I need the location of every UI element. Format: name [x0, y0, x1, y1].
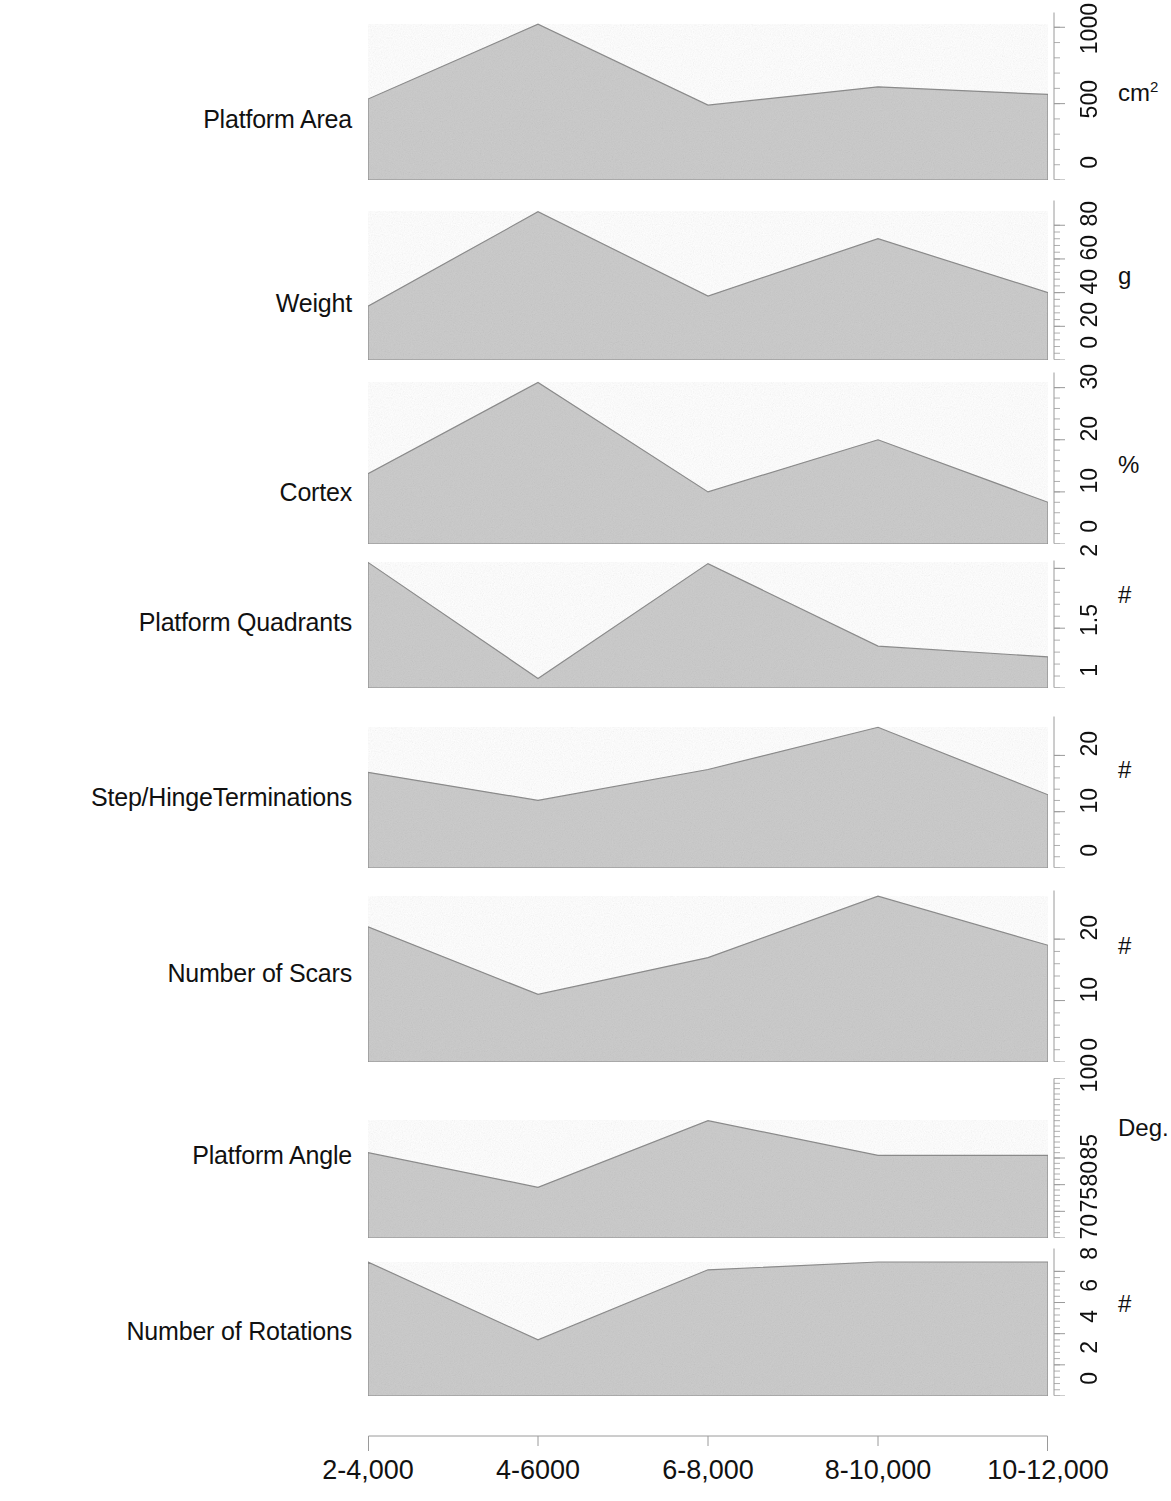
panel-label: Number of Rotations [2, 1317, 352, 1346]
y-tick-label: 20 [1078, 915, 1101, 941]
y-tick-label: 20 [1078, 731, 1101, 757]
y-tick-label: 20 [1078, 302, 1101, 328]
y-tick-label: 85 [1078, 1134, 1101, 1160]
area-texture [368, 1121, 1048, 1238]
y-tick-label: 2 [1078, 544, 1101, 557]
stacked-area-chart-figure: Platform Area05001000cm2Weight020406080g… [0, 0, 1171, 1501]
area-texture [368, 562, 1048, 688]
y-tick-label: 0 [1078, 844, 1101, 857]
y-tick-label: 0 [1078, 520, 1101, 533]
panel-plot-area [368, 890, 1048, 1062]
area-texture [368, 896, 1048, 1062]
panel-label: Cortex [2, 478, 352, 507]
y-tick-label: 70 [1078, 1214, 1101, 1240]
y-tick-label: 30 [1078, 364, 1101, 390]
area-texture [368, 1262, 1048, 1396]
y-tick-label: 1000 [1078, 3, 1101, 54]
y-tick-label: 0 [1078, 336, 1101, 349]
y-tick-label: 0 [1078, 156, 1101, 169]
area-texture [368, 212, 1048, 360]
panel-label: Weight [2, 289, 352, 318]
y-tick-label: 60 [1078, 235, 1101, 261]
panel-label: Number of Scars [2, 959, 352, 988]
y-tick-label: 10 [1078, 977, 1101, 1003]
unit-text: Deg. [1118, 1114, 1169, 1141]
x-axis-tick-label: 8-10,000 [825, 1455, 932, 1486]
y-axis-unit-label: g [1118, 262, 1131, 290]
panel-label: Platform Quadrants [2, 608, 352, 637]
unit-text: # [1118, 932, 1131, 959]
y-tick-label: 8 [1078, 1247, 1101, 1260]
y-axis-unit-label: cm2 [1118, 78, 1158, 107]
area-texture [368, 24, 1048, 180]
x-axis-tick-label: 4-6000 [496, 1455, 580, 1486]
panel-plot-area [368, 716, 1048, 868]
y-axis [1048, 372, 1088, 544]
y-tick-label: 100 [1078, 1054, 1101, 1092]
y-axis-unit-label: # [1118, 932, 1131, 960]
y-tick-label: 0 [1078, 1038, 1101, 1051]
y-tick-label: 4 [1078, 1310, 1101, 1323]
unit-text: g [1118, 262, 1131, 289]
y-tick-label: 10 [1078, 788, 1101, 814]
y-tick-label: 40 [1078, 269, 1101, 295]
panel-plot-area [368, 1248, 1048, 1396]
panel-label: Platform Area [2, 105, 352, 134]
y-tick-label: 80 [1078, 1161, 1101, 1187]
y-axis-unit-label: # [1118, 1290, 1131, 1318]
panel-label: Platform Angle [2, 1141, 352, 1170]
y-tick-label: 1 [1078, 664, 1101, 677]
unit-text: cm [1118, 79, 1150, 106]
unit-text: % [1118, 451, 1139, 478]
unit-text: # [1118, 581, 1131, 608]
y-tick-label: 1.5 [1078, 604, 1101, 636]
panel-plot-area [368, 372, 1048, 544]
x-axis-tick-label: 6-8,000 [662, 1455, 754, 1486]
y-tick-label: 80 [1078, 201, 1101, 227]
y-axis-unit-label: # [1118, 756, 1131, 784]
panel-label: Step/HingeTerminations [2, 783, 352, 812]
unit-text: # [1118, 1290, 1131, 1317]
panel-plot-area [368, 12, 1048, 180]
y-axis-unit-label: Deg. [1118, 1114, 1169, 1142]
unit-superscript: 2 [1150, 78, 1158, 95]
x-axis-tick-label: 10-12,000 [987, 1455, 1109, 1486]
y-tick-label: 75 [1078, 1187, 1101, 1213]
area-texture [368, 382, 1048, 544]
y-tick-label: 6 [1078, 1279, 1101, 1292]
x-axis-tick-label: 2-4,000 [322, 1455, 414, 1486]
unit-text: # [1118, 756, 1131, 783]
panel-plot-area [368, 560, 1048, 688]
y-tick-label: 2 [1078, 1341, 1101, 1354]
panel-plot-area [368, 1078, 1048, 1238]
x-axis-bracket [368, 1434, 1048, 1454]
y-tick-label: 500 [1078, 80, 1101, 118]
y-tick-label: 20 [1078, 416, 1101, 442]
x-axis-labels: 2-4,0004-60006-8,0008-10,00010-12,000 [280, 1455, 1160, 1501]
y-axis-unit-label: % [1118, 451, 1139, 479]
y-tick-label: 10 [1078, 468, 1101, 494]
area-texture [368, 727, 1048, 868]
y-tick-label: 0 [1078, 1372, 1101, 1385]
y-axis-unit-label: # [1118, 581, 1131, 609]
panel-plot-area [368, 200, 1048, 360]
